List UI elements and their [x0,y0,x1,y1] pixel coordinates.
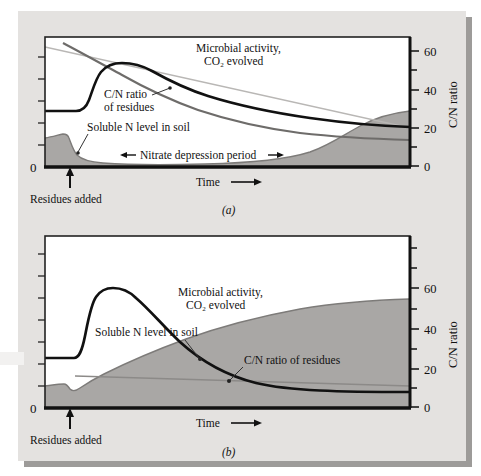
leader-dot-soluble-n-b [198,357,202,361]
y-tick-label-60-a: 60 [424,45,437,59]
y-axis-title-a: C/N ratio [446,81,460,128]
y-tick-label-0-a: 0 [424,160,430,174]
leader-dot-soluble-n-a [76,151,80,155]
annotation-microbial-activity-line1-b: Microbial activity, [178,286,263,299]
annotation-cn-ratio-b: C/N ratio of residues [244,354,341,366]
chart-panel-a: 60 40 20 0 C/N ratio 0 Microbial activit… [0,0,481,232]
figure-root: 60 40 20 0 C/N ratio 0 Microbial activit… [0,0,481,476]
panel-caption-a: (a) [222,204,236,217]
x-axis-arrow-a [231,179,262,186]
y-tick-label-60-b: 60 [424,282,437,296]
annotation-microbial-activity-line2-b: CO₂ evolved [186,299,246,311]
x-axis-label-a: Time [196,176,220,188]
y-ticks-left-a [38,57,45,145]
chart-a-svg: 60 40 20 0 C/N ratio 0 Microbial activit… [0,0,481,232]
annotation-cn-ratio-line1-a: C/N ratio [104,88,147,100]
annotation-nitrate-depression-a: Nitrate depression period [140,149,256,162]
arrow-residues-added-a [66,167,74,188]
arrow-residues-added-b [66,408,74,429]
leader-dot-cn-ratio-b [227,379,231,383]
annotation-soluble-n-a: Soluble N level in soil [87,121,190,133]
y-tick-label-0-b: 0 [424,401,430,415]
annotation-cn-ratio-line2-a: of residues [104,101,155,113]
annotation-residues-added-b: Residues added [30,434,102,446]
y-ticks-left-b [38,254,45,386]
origin-label-a: 0 [30,160,37,175]
x-axis-label-b: Time [196,417,220,429]
annotation-soluble-n-b: Soluble N level in soil [95,326,198,338]
annotation-residues-added-a: Residues added [30,193,102,205]
origin-label-b: 0 [30,401,37,416]
y-tick-label-20-a: 20 [424,122,437,136]
x-axis-arrow-b [231,420,262,427]
annotation-microbial-activity-line1-a: Microbial activity, [196,42,281,55]
panel-caption-b: (b) [222,446,236,459]
y-tick-label-40-b: 40 [424,323,437,337]
y-tick-label-40-a: 40 [424,84,437,98]
chart-b-svg: 60 40 20 0 C/N ratio 0 Microbial activit… [0,228,481,476]
y-tick-label-20-b: 20 [424,363,437,377]
y-axis-title-b: C/N ratio [446,321,460,368]
annotation-microbial-activity-line2-a: CO₂ evolved [204,55,264,67]
chart-panel-b: 60 40 20 0 C/N ratio 0 Microbial activit… [0,228,481,476]
leader-dot-cn-ratio-a [168,86,172,90]
